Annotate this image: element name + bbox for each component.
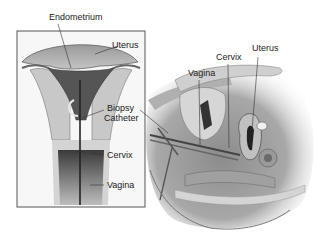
anatomy-illustration [0,0,319,240]
sagittal-view [146,57,313,229]
label-cervix-inset: Cervix [107,150,133,160]
diagram-canvas: Endometrium Uterus Biopsy Catheter Cervi… [0,0,319,240]
label-uterus-sagittal: Uterus [252,43,279,53]
inset-view [17,24,168,207]
label-vagina-inset: Vagina [107,180,134,190]
label-biopsy-catheter-line2: Catheter [104,113,139,123]
label-biopsy-catheter-line1: Biopsy [107,103,134,113]
label-endometrium: Endometrium [49,12,103,22]
label-vagina-sagittal: Vagina [188,68,215,78]
label-cervix-sagittal: Cervix [216,52,242,62]
label-uterus-inset: Uterus [112,40,139,50]
